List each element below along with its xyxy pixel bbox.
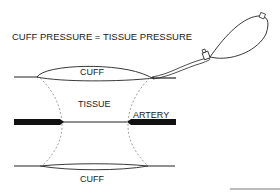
inflation-bulb-icon [210, 16, 268, 58]
diagram-title: CUFF PRESSURE = TISSUE PRESSURE [12, 31, 192, 42]
artery-left-segment [14, 119, 64, 125]
bottom-cuff-bladder [40, 164, 148, 170]
bottom-cuff-label: CUFF [80, 174, 104, 184]
cuff-pressure-diagram: CUFF PRESSURE = TISSUE PRESSURE CUFF TIS… [0, 0, 280, 194]
valve-knob-icon [202, 49, 206, 53]
top-cuff-label: CUFF [80, 67, 104, 77]
tube-line-lower [153, 58, 210, 79]
tube-line-upper [152, 55, 209, 77]
artery-right-segment [127, 119, 176, 125]
tissue-label: TISSUE [78, 99, 111, 109]
artery-label: ARTERY [133, 110, 169, 120]
